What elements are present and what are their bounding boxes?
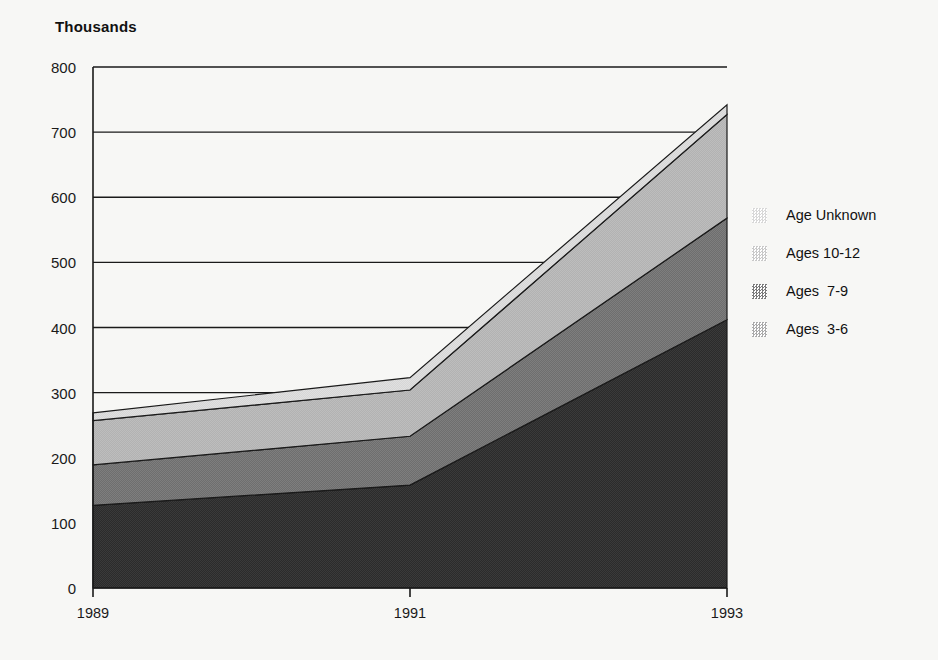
legend-item[interactable]: Age Unknown [752, 196, 932, 234]
y-tick-label: 0 [30, 581, 76, 596]
legend-swatch-ages-7-9 [752, 284, 767, 299]
legend-item[interactable]: Ages 7-9 [752, 272, 932, 310]
y-tick-label: 300 [30, 386, 76, 401]
legend: Age Unknown Ages 10-12 Ages 7-9 Ages 3-6 [752, 196, 932, 348]
legend-item[interactable]: Ages 3-6 [752, 310, 932, 348]
x-tick-label: 1991 [375, 606, 445, 621]
y-tick-label: 700 [30, 125, 76, 140]
legend-swatch-ages-10-12 [752, 246, 767, 261]
legend-label-age-unknown: Age Unknown [786, 207, 876, 223]
legend-swatch-ages-3-6 [752, 322, 767, 337]
x-tick-label: 1989 [58, 606, 128, 621]
y-tick-label: 600 [30, 190, 76, 205]
y-tick-label: 800 [30, 60, 76, 75]
y-tick-label: 100 [30, 516, 76, 531]
y-tick-label: 400 [30, 321, 76, 336]
legend-label-ages-10-12: Ages 10-12 [786, 245, 860, 261]
legend-label-ages-7-9: Ages 7-9 [786, 283, 848, 299]
area-bands [93, 105, 727, 588]
x-tick-label: 1993 [692, 606, 762, 621]
legend-swatch-age-unknown [752, 208, 767, 223]
y-tick-label: 500 [30, 255, 76, 270]
legend-item[interactable]: Ages 10-12 [752, 234, 932, 272]
legend-label-ages-3-6: Ages 3-6 [786, 321, 848, 337]
stacked-area-chart: Thousands [0, 0, 938, 660]
x-tick-marks [93, 588, 727, 597]
y-tick-label: 200 [30, 451, 76, 466]
